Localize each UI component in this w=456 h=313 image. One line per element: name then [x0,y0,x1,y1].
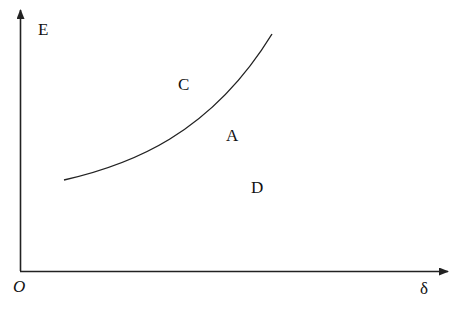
x-axis-label: δ [420,280,428,297]
diagram-graphics [0,0,456,313]
boundary-curve [64,34,272,180]
region-label-a: A [226,127,238,144]
origin-label: O [13,278,25,295]
region-label-d: D [251,179,263,196]
region-label-c: C [178,76,189,93]
y-axis-label: E [38,21,48,38]
diagram-canvas: E O δ C A D [0,0,456,313]
